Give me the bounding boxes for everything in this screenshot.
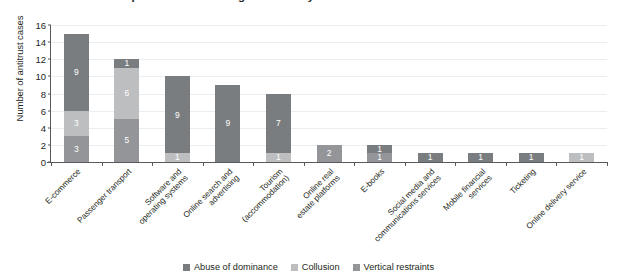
bar-segment[interactable]: 3 (64, 136, 89, 162)
bar-segment-value: 1 (175, 153, 180, 162)
bar-series-group: 339561199172111111 (51, 25, 607, 162)
bar-segment[interactable]: 1 (367, 145, 392, 154)
x-category-label: E-commerce (44, 167, 83, 206)
x-tick-mark (203, 162, 204, 166)
legend-item[interactable]: Abuse of dominance (183, 262, 278, 272)
bar-segment[interactable]: 1 (367, 153, 392, 162)
bar-segment[interactable]: 7 (266, 94, 291, 154)
bar-group[interactable]: 9 (215, 25, 240, 162)
bar-group[interactable]: 339 (64, 25, 89, 162)
x-category-label: Tourism (accommodation) (234, 167, 291, 224)
x-tick-mark (102, 162, 103, 166)
bar-segment-value: 1 (124, 59, 129, 68)
legend-item[interactable]: Vertical restraints (353, 262, 434, 272)
x-category-label: E-books (359, 167, 387, 195)
x-tick-mark (253, 162, 254, 166)
bar-group[interactable]: 11 (367, 25, 392, 162)
y-tick-label: 0 (41, 157, 46, 168)
x-tick-mark (152, 162, 153, 166)
y-tick-label: 14 (35, 37, 46, 48)
y-tick-label: 4 (41, 122, 46, 133)
x-category-label: Online search and advertising (182, 167, 242, 227)
x-axis-line (47, 162, 607, 163)
bar-segment[interactable]: 9 (64, 34, 89, 111)
bar-group[interactable]: 19 (165, 25, 190, 162)
legend-swatch-icon (353, 264, 360, 271)
bar-segment-value: 5 (124, 136, 129, 145)
bar-segment[interactable]: 9 (215, 85, 240, 162)
bar-segment[interactable]: 1 (468, 153, 493, 162)
bar-segment-value: 2 (327, 149, 332, 158)
y-tick-label: 10 (35, 71, 46, 82)
bar-segment-value: 1 (428, 153, 433, 162)
x-category-label: Ticketing (509, 167, 538, 196)
bar-segment[interactable]: 5 (114, 119, 139, 162)
y-axis-title: Number of antitrust cases (14, 0, 25, 144)
legend-item[interactable]: Collusion (291, 262, 340, 272)
x-category-label: Mobile financial services (441, 167, 494, 220)
bar-segment[interactable]: 6 (114, 68, 139, 119)
bar-segment[interactable]: 1 (266, 153, 291, 162)
y-tick-label: 2 (41, 139, 46, 150)
bar-segment-value: 1 (478, 153, 483, 162)
bar-segment-value: 9 (175, 111, 180, 120)
bar-group[interactable]: 17 (266, 25, 291, 162)
bar-segment[interactable]: 1 (569, 153, 594, 162)
bar-segment-value: 1 (579, 153, 584, 162)
x-tick-mark (354, 162, 355, 166)
bar-segment-value: 1 (529, 153, 534, 162)
legend-label: Collusion (302, 262, 340, 272)
x-tick-mark (304, 162, 305, 166)
bar-segment-value: 3 (74, 119, 79, 128)
bar-group[interactable]: 1 (569, 25, 594, 162)
x-tick-mark (556, 162, 557, 166)
bar-segment-value: 6 (124, 89, 129, 98)
x-category-label: Passenger transport (75, 167, 133, 225)
legend-label: Vertical restraints (364, 262, 434, 272)
y-tick-label: 6 (41, 105, 46, 116)
bar-segment-value: 9 (226, 119, 231, 128)
bar-group[interactable]: 1 (418, 25, 443, 162)
bar-segment[interactable]: 9 (165, 76, 190, 153)
bar-segment[interactable]: 2 (317, 145, 342, 162)
bar-segment-value: 9 (74, 68, 79, 77)
bar-segment-value: 3 (74, 145, 79, 154)
bar-segment-value: 1 (377, 145, 382, 154)
bar-segment-value: 1 (377, 153, 382, 162)
x-tick-mark (607, 162, 608, 166)
bar-group[interactable]: 2 (317, 25, 342, 162)
plot-area: 0246810121416 339561199172111111 (51, 25, 607, 162)
bar-segment-value: 7 (276, 119, 281, 128)
bar-segment[interactable]: 1 (114, 59, 139, 68)
bar-segment-value: 1 (276, 153, 281, 162)
y-tick-label: 8 (41, 88, 46, 99)
bar-segment[interactable]: 3 (64, 111, 89, 137)
bar-group[interactable]: 1 (519, 25, 544, 162)
x-tick-mark (405, 162, 406, 166)
x-tick-mark (455, 162, 456, 166)
legend-swatch-icon (291, 264, 298, 271)
x-category-label: Software and operating systems (131, 167, 191, 227)
bar-group[interactable]: 561 (114, 25, 139, 162)
legend-swatch-icon (183, 264, 190, 271)
chart-title: ...orldwide across multiple sectors of t… (6, 0, 606, 2)
bar-group[interactable]: 1 (468, 25, 493, 162)
bar-segment[interactable]: 1 (165, 153, 190, 162)
y-tick-label: 16 (35, 20, 46, 31)
chart-container: ...orldwide across multiple sectors of t… (0, 0, 617, 280)
x-category-label: Online real estate platforms (288, 167, 342, 221)
bar-segment[interactable]: 1 (519, 153, 544, 162)
x-tick-mark (506, 162, 507, 166)
x-tick-mark (51, 162, 52, 166)
y-tick-label: 12 (35, 54, 46, 65)
bar-segment[interactable]: 1 (418, 153, 443, 162)
chart-legend: Abuse of dominanceCollusionVertical rest… (0, 262, 617, 272)
legend-label: Abuse of dominance (194, 262, 278, 272)
